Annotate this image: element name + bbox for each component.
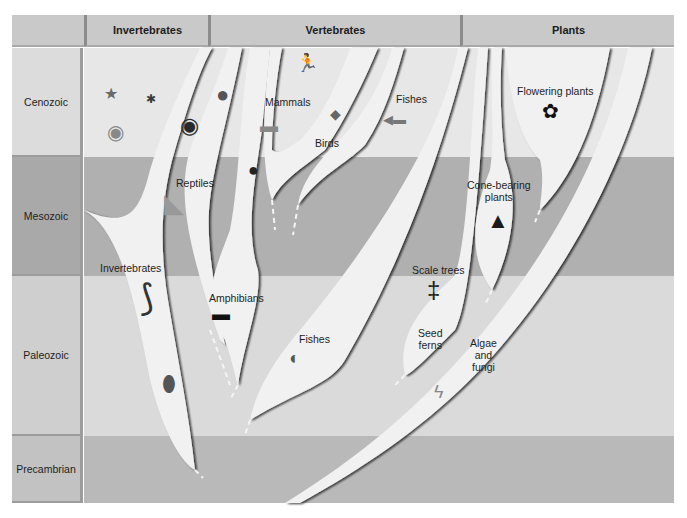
label-seed-ferns: Seed ferns — [418, 327, 443, 351]
label-cone-bearing: Cone-bearing plants — [467, 179, 531, 203]
algae-icon: ϟ — [434, 384, 444, 400]
salamander-icon: ▬ — [212, 306, 230, 322]
scale-tree-icon: ‡ — [427, 282, 440, 298]
branch-invertebrates — [84, 48, 212, 470]
label-birds: Birds — [315, 137, 339, 149]
label-algae-fungi: Algae and fungi — [470, 337, 497, 373]
starfish-icon: ★ — [104, 86, 118, 102]
label-cone-bearing-line1: Cone-bearing — [467, 179, 531, 191]
jawless-fish-icon: ◐ — [289, 350, 300, 366]
label-seed-ferns-line2: ferns — [419, 339, 442, 351]
label-mammals: Mammals — [265, 96, 311, 108]
insect-icon: ✱ — [146, 91, 156, 107]
crinoid-icon: ⟆ — [140, 290, 154, 306]
birds-icon: ◆ — [330, 106, 341, 122]
label-algae-line2: and — [475, 349, 493, 361]
label-fishes-paleozoic: Fishes — [299, 333, 330, 345]
evolution-diagram: Invertebrates Vertebrates Plants Cenozoi… — [0, 0, 687, 518]
phylogeny-branches — [0, 0, 687, 518]
big-cat-icon: ▬ — [260, 118, 278, 134]
trilobite-icon: ⬮ — [162, 376, 176, 392]
flower-icon: ✿ — [542, 103, 559, 119]
label-scale-trees: Scale trees — [412, 264, 465, 276]
shell-icon: ◉ — [107, 124, 124, 140]
label-flowering-plants: Flowering plants — [517, 85, 593, 97]
runner-icon: 🏃 — [296, 55, 318, 71]
label-amphibians: Amphibians — [209, 292, 264, 304]
fish-icon: ◀▬ — [383, 112, 406, 128]
label-cone-bearing-line2: plants — [485, 191, 513, 203]
rodent-icon: ● — [248, 162, 259, 178]
label-algae-line3: fungi — [472, 361, 495, 373]
label-fishes-cenozoic: Fishes — [396, 93, 427, 105]
dinosaur-icon: ◣ — [164, 195, 184, 211]
frog-icon: ● — [216, 87, 229, 103]
label-invertebrates: Invertebrates — [100, 262, 161, 274]
conifer-icon: ▲ — [487, 213, 509, 229]
snail-icon: ◉ — [180, 118, 199, 134]
label-seed-ferns-line1: Seed — [418, 327, 443, 339]
label-algae-line1: Algae — [470, 337, 497, 349]
